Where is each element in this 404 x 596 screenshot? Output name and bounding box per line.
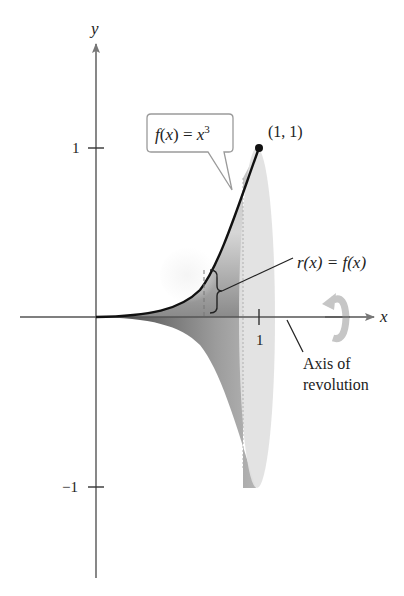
x-axis-label: x — [379, 307, 388, 326]
solid-upper-half — [96, 148, 259, 317]
end-cap-ellipse — [239, 148, 275, 488]
x-tick-label-1: 1 — [256, 332, 264, 348]
y-tick-label-1: 1 — [72, 140, 80, 156]
y-axis-label: y — [89, 19, 99, 38]
solid-lower-half — [96, 317, 256, 488]
function-callout: f(x) = x3 — [147, 114, 233, 190]
rotation-arrow-icon — [322, 293, 350, 339]
axis-annotation-line1: Axis of — [303, 355, 351, 372]
point-label: (1, 1) — [268, 123, 303, 141]
axis-leader-line — [287, 320, 303, 352]
axis-of-revolution-annotation: Axis of revolution — [287, 320, 369, 393]
solid-of-revolution-diagram: 1 x 1 −1 y (1, 1) f(x) = x3 r(x) = f(x) … — [0, 0, 404, 596]
function-label: f(x) = x3 — [155, 123, 210, 144]
y-tick-label-neg1: −1 — [62, 479, 78, 495]
y-axis: 1 −1 y — [62, 19, 104, 578]
radius-label: r(x) = f(x) — [297, 253, 366, 272]
point-1-1 — [255, 144, 263, 152]
axis-annotation-line2: revolution — [303, 376, 369, 393]
